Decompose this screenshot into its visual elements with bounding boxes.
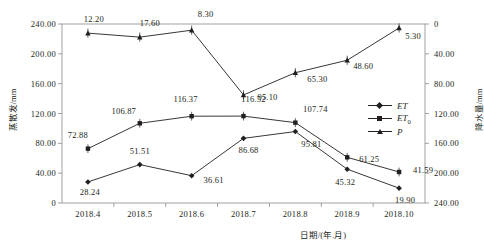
data-label: 86.68 [229, 145, 269, 155]
legend-marker-icon [368, 101, 392, 110]
data-label: 65.30 [297, 74, 337, 84]
data-label: 19.90 [385, 195, 425, 205]
legend-label: ET [397, 101, 408, 111]
legend-item-et0[interactable]: ET0 [368, 112, 411, 125]
legend-marker-icon [368, 114, 392, 123]
legend-marker-icon [368, 127, 392, 136]
data-label: 12.20 [74, 14, 114, 24]
chart-legend: ETET0P [368, 99, 411, 138]
data-label: 48.60 [343, 61, 383, 71]
data-label: 41.59 [403, 165, 443, 175]
legend-label: P [397, 127, 403, 137]
data-label: 8.30 [186, 9, 226, 19]
legend-label: ET0 [397, 113, 411, 125]
data-label: 51.51 [120, 146, 160, 156]
legend-item-et[interactable]: ET [368, 99, 411, 112]
data-label: 5.30 [393, 31, 433, 41]
data-label: 106.87 [104, 106, 144, 116]
data-label: 95.81 [291, 139, 331, 149]
data-label: 45.32 [325, 177, 365, 187]
data-label: 17.60 [130, 18, 170, 28]
data-label: 116.37 [166, 94, 206, 104]
data-label: 107.74 [295, 104, 335, 114]
data-label: 72.88 [58, 130, 98, 140]
data-label: 36.61 [194, 175, 234, 185]
legend-item-p[interactable]: P [368, 125, 411, 138]
data-label: 61.25 [349, 154, 389, 164]
data-label: 28.24 [70, 187, 110, 197]
data-label: 95.10 [248, 92, 288, 102]
